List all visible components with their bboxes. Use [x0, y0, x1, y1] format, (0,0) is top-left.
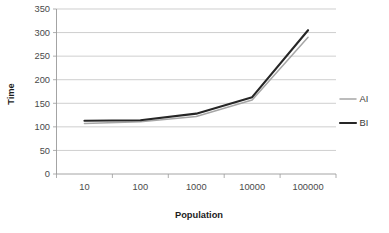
legend-label-bi: BI	[360, 118, 369, 128]
y-axis-title: Time	[6, 83, 16, 105]
chart-canvas: 050100150200250300350 101001000100001000…	[0, 0, 389, 233]
tick-marks-group	[53, 9, 336, 178]
x-tick-label: 100000	[293, 182, 324, 192]
y-tick-label: 50	[40, 146, 50, 156]
line-chart: 050100150200250300350 101001000100001000…	[0, 0, 389, 233]
x-tick-label: 1000	[186, 182, 207, 192]
x-tick-label: 10	[79, 182, 89, 192]
axis-lines-group	[57, 9, 337, 174]
x-tick-label: 10000	[239, 182, 265, 192]
y-tick-label: 350	[34, 4, 50, 14]
x-tick-label: 100	[133, 182, 149, 192]
y-tick-label: 300	[34, 28, 50, 38]
y-axis-tick-labels: 050100150200250300350	[34, 4, 50, 179]
y-tick-label: 250	[34, 51, 50, 61]
legend-label-ai: AI	[360, 94, 369, 104]
y-tick-label: 150	[34, 99, 50, 109]
series-line-ai	[84, 37, 308, 123]
gridlines-group	[57, 9, 337, 150]
y-tick-label: 200	[34, 75, 50, 85]
legend: AIBI	[340, 94, 368, 128]
y-tick-label: 100	[34, 122, 50, 132]
data-series-group	[84, 30, 308, 123]
x-axis-tick-labels: 10100100010000100000	[79, 182, 323, 192]
y-tick-label: 0	[45, 169, 50, 179]
x-axis-title: Population	[175, 210, 223, 220]
